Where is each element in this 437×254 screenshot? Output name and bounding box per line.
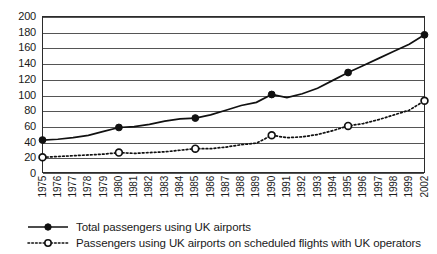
- x-tick-label: 1980: [114, 176, 124, 197]
- x-tick-label: 1983: [160, 176, 170, 197]
- legend-label-scheduled: Passengers using UK airports on schedule…: [76, 237, 421, 250]
- data-point-marker: [268, 91, 275, 98]
- x-tick-label: 1977: [68, 176, 78, 197]
- data-point-marker: [116, 149, 123, 156]
- x-tick-label: 1989: [251, 176, 261, 197]
- x-tick-label: 1988: [236, 176, 246, 197]
- series-line-0: [43, 35, 425, 140]
- x-tick-label: 1976: [53, 176, 63, 197]
- series-layer: [42, 16, 425, 173]
- y-tick-label: 200: [18, 11, 36, 22]
- x-tick-label: 1996: [358, 176, 368, 197]
- legend-item-total: Total passengers using UK airports: [26, 219, 431, 235]
- y-tick-label: 160: [18, 42, 36, 53]
- x-tick-label: 1982: [144, 176, 154, 197]
- data-point-marker: [39, 137, 46, 144]
- series-line-1: [43, 101, 425, 158]
- data-point-marker: [345, 69, 352, 76]
- x-tick-label: 1999: [404, 176, 414, 197]
- y-axis: 200180160140120100806040200: [0, 16, 38, 173]
- data-point-marker: [116, 124, 123, 131]
- data-point-marker: [39, 154, 46, 161]
- x-tick-label: 1981: [129, 176, 139, 197]
- legend-item-scheduled: Passengers using UK airports on schedule…: [26, 235, 431, 251]
- x-axis: 1975197619771978197919801981198219831984…: [42, 176, 425, 220]
- x-tick-label: 1993: [313, 176, 323, 197]
- legend-swatch-solid-filled-circle: [26, 220, 70, 234]
- x-tick-label: 1992: [297, 176, 307, 197]
- x-tick-label: 2002: [420, 176, 430, 197]
- y-tick-label: 40: [24, 136, 36, 147]
- chart-legend: Total passengers using UK airports Passe…: [26, 219, 431, 251]
- x-tick-label: 1987: [221, 176, 231, 197]
- data-point-marker: [268, 132, 275, 139]
- x-tick-label: 1985: [190, 176, 200, 197]
- x-tick-label: 1990: [267, 176, 277, 197]
- x-tick-label: 1997: [374, 176, 384, 197]
- y-tick-label: 20: [24, 152, 36, 163]
- x-tick-label: 1991: [282, 176, 292, 197]
- x-tick-label: 1986: [206, 176, 216, 197]
- x-tick-label: 1979: [99, 176, 109, 197]
- data-point-marker: [192, 115, 199, 122]
- data-point-marker: [421, 97, 428, 104]
- x-tick-label: 1998: [389, 176, 399, 197]
- legend-swatch-dotted-open-circle: [26, 236, 70, 250]
- data-point-marker: [345, 123, 352, 130]
- y-tick-label: 80: [24, 105, 36, 116]
- x-tick-label: 1994: [328, 176, 338, 197]
- data-point-marker: [192, 145, 199, 152]
- line-chart: 200180160140120100806040200 197519761977…: [0, 0, 437, 254]
- legend-label-total: Total passengers using UK airports: [76, 221, 251, 234]
- y-tick-label: 60: [24, 120, 36, 131]
- y-tick-label: 120: [18, 73, 36, 84]
- y-tick-label: 0: [30, 168, 36, 179]
- y-tick-label: 100: [18, 89, 36, 100]
- gridline: [43, 173, 424, 174]
- y-tick-label: 180: [18, 26, 36, 37]
- x-tick-label: 1975: [38, 176, 48, 197]
- y-tick-label: 140: [18, 58, 36, 69]
- data-point-marker: [421, 31, 428, 38]
- x-tick-label: 1984: [175, 176, 185, 197]
- x-tick-label: 1978: [83, 176, 93, 197]
- x-tick-label: 1995: [343, 176, 353, 197]
